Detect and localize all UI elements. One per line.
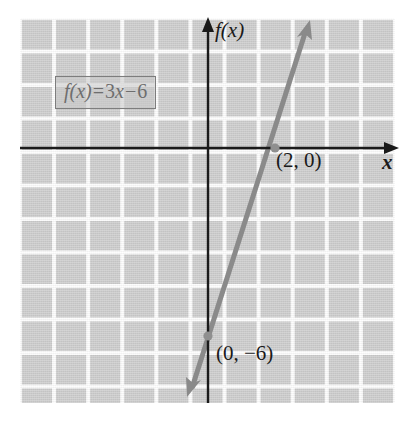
equation-constant: 6 (137, 80, 147, 102)
equation-lhs: f(x) (64, 80, 92, 102)
equation-coefficient: 3 (105, 80, 115, 102)
equation-variable: x (115, 80, 124, 102)
equation-label-box: f(x)=3x−6 (55, 76, 156, 109)
graph-figure: f(x) x (2, 0) (0, −6) f(x)=3x−6 (0, 0, 414, 424)
point-label-y-intercept: (0, −6) (216, 343, 273, 364)
equation-equals: = (92, 80, 105, 102)
equation-minus: − (124, 80, 137, 102)
x-axis-group (20, 142, 399, 154)
point-marker-y-intercept (203, 331, 212, 340)
point-label-x-intercept: (2, 0) (276, 150, 322, 171)
y-axis-label: f(x) (215, 20, 244, 41)
graph-overlay (0, 0, 414, 424)
y-axis-arrowhead (202, 17, 214, 32)
x-axis-label: x (382, 152, 393, 173)
